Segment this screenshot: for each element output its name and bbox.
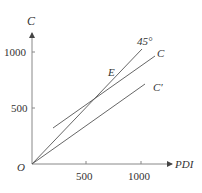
- line-c: [53, 56, 155, 128]
- x-tick-label-1000: 1000: [128, 170, 151, 182]
- line-c-label: C: [157, 47, 165, 59]
- origin-label: O: [17, 161, 25, 173]
- point-e-label: E: [107, 66, 115, 78]
- consumption-diagram: C PDI O 1000 500 500 1000 45° C C′ E: [0, 0, 202, 193]
- x-axis-label: PDI: [174, 158, 195, 170]
- y-tick-label-500: 500: [11, 102, 28, 114]
- line-c-prime: [32, 84, 145, 164]
- line-c-prime-label: C′: [153, 81, 163, 93]
- line-45-degree: [32, 49, 142, 164]
- x-tick-label-500: 500: [76, 170, 93, 182]
- y-tick-label-1000: 1000: [4, 46, 27, 58]
- y-axis-label: C: [27, 14, 36, 28]
- line-45-label: 45°: [137, 35, 153, 47]
